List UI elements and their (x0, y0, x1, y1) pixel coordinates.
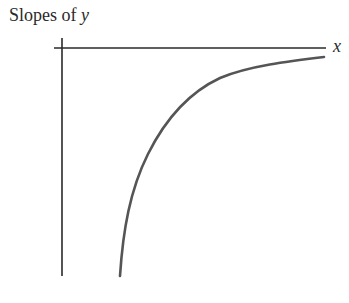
x-axis-label: x (332, 36, 341, 56)
slope-curve (120, 57, 324, 276)
slope-plot: x (0, 0, 349, 303)
